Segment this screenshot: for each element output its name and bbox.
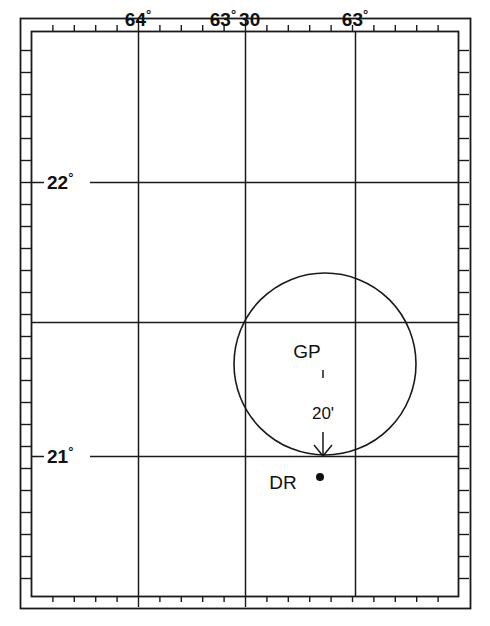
longitude-label-1: 63°30 [210,7,260,31]
graticule-gridlines [31,31,458,596]
dr-position-dot [316,473,324,481]
navigation-chart: 64°63°3063° 22°21° GP 20' DR [0,0,490,626]
dr-label: DR [269,472,296,493]
longitude-label-0: 64° [125,7,151,31]
latitude-labels: 22°21° [44,169,90,469]
longitude-label-2: 63° [342,7,368,31]
chart-canvas: 64°63°3063° 22°21° GP 20' DR [0,0,490,626]
circle-of-position [234,273,416,455]
intercept-distance-label: 20' [312,404,334,423]
gp-label: GP [293,341,320,362]
